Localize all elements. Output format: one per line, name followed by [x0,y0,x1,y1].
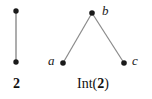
node-label-b: b [102,4,109,17]
node-left-bottom [13,59,18,64]
right-diagram-group [60,10,127,66]
edge-a-b [63,13,92,63]
edge-b-c [92,13,124,63]
caption-prefix: Int( [77,76,97,91]
caption-left-diagram: 2 [0,76,33,92]
node-label-c: c [132,54,138,67]
caption-suffix: ) [104,76,109,91]
left-diagram-group [13,8,18,64]
node-b [89,10,95,16]
node-left-top [13,8,18,13]
figure-container: b a c 2 Int(2) [0,0,152,99]
caption-right-diagram: Int(2) [58,76,128,92]
node-label-a: a [48,54,55,67]
node-c [121,60,127,66]
node-a [60,60,66,66]
